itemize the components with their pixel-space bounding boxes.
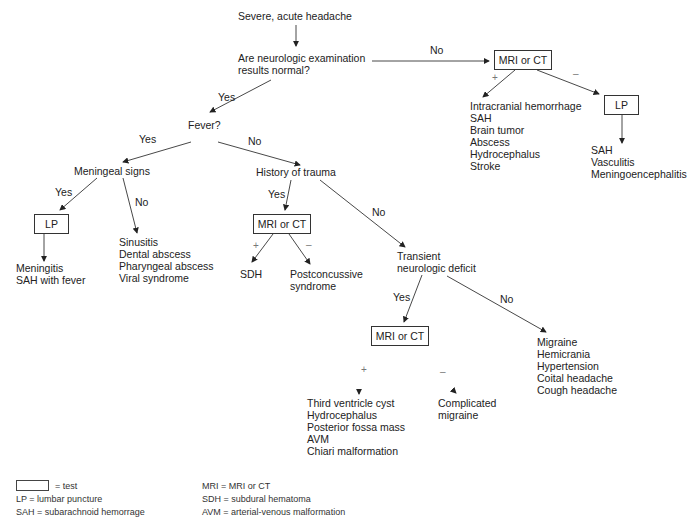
- edge-label-yes: Yes: [268, 188, 285, 200]
- edge-label-yes: Yes: [55, 186, 72, 198]
- edge-label-no: No: [430, 44, 443, 56]
- meningeal-signs-node: Meningeal signs: [74, 165, 150, 177]
- edge-label-no: No: [372, 206, 385, 218]
- test-box-lp-top: LP: [604, 95, 639, 115]
- meningeal-no-results: Sinusitis Dental abscess Pharyngeal absc…: [119, 236, 214, 284]
- legend-lp: LP = lumbar puncture: [16, 494, 102, 505]
- edge-label-no: No: [135, 196, 148, 208]
- legend-mri: MRI = MRI or CT: [202, 481, 270, 492]
- test-box-mri-ct-top: MRI or CT: [494, 50, 552, 70]
- legend-sah: SAH = subarachnoid hemorrage: [16, 507, 145, 518]
- legend-test-box: [16, 480, 49, 491]
- meningeal-yes-results: Meningitis SAH with fever: [16, 262, 85, 286]
- edge-label-yes: Yes: [139, 133, 156, 145]
- abnormal-positive-results: Intracranial hemorrhage SAH Brain tumor …: [470, 100, 581, 172]
- start-node: Severe, acute headache: [238, 10, 352, 22]
- transient-negative-results: Complicated migraine: [438, 397, 496, 421]
- transient-no-results: Migraine Hemicrania Hypertension Coital …: [537, 336, 617, 396]
- positive-sign: +: [253, 240, 259, 251]
- positive-sign: +: [492, 72, 498, 83]
- question-neuro-exam-line1: Are neurologic examination: [238, 52, 365, 64]
- edge-label-yes: Yes: [218, 91, 235, 103]
- test-box-mri-ct-transient: MRI or CT: [371, 326, 429, 346]
- abnormal-lp-results: SAH Vasculitis Meningoencephalitis: [591, 144, 687, 180]
- legend-test: = test: [55, 481, 77, 492]
- negative-sign: –: [306, 239, 312, 250]
- negative-sign: –: [573, 68, 579, 79]
- history-trauma-node: History of trauma: [256, 166, 336, 178]
- edge-label-no: No: [248, 135, 261, 147]
- fever-node: Fever?: [188, 119, 221, 131]
- edge-label-yes: Yes: [393, 291, 410, 303]
- negative-sign: –: [440, 366, 446, 377]
- transient-deficit-line1: Transient: [397, 250, 440, 262]
- legend-sdh: SDH = subdural hematoma: [202, 494, 311, 505]
- edge-label-no: No: [500, 293, 513, 305]
- trauma-positive-result: SDH: [240, 268, 262, 280]
- test-box-mri-ct-trauma: MRI or CT: [253, 214, 311, 234]
- legend-avm: AVM = arterial-venous malformation: [202, 507, 345, 518]
- test-box-lp-meningeal: LP: [34, 214, 69, 234]
- trauma-negative-result: Postconcussive syndrome: [290, 268, 363, 292]
- positive-sign: +: [361, 364, 367, 375]
- transient-positive-results: Third ventricle cyst Hydrocephalus Poste…: [307, 397, 405, 457]
- transient-deficit-line2: neurologic deficit: [397, 262, 476, 274]
- question-neuro-exam-line2: results normal?: [238, 64, 310, 76]
